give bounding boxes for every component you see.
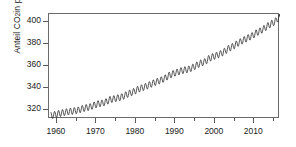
x-tick-minor-1985	[155, 118, 156, 121]
y-tick-label-360: 360	[1, 60, 41, 69]
co2-chart-figure: Anteil CO2 in ppm 3203403603804001960197…	[0, 0, 296, 147]
x-tick-1960	[56, 118, 57, 123]
y-tick-label-320: 320	[1, 104, 41, 113]
x-tick-1990	[174, 118, 175, 123]
x-tick-label-1960: 1960	[36, 127, 76, 136]
y-tick-400	[43, 21, 48, 22]
x-tick-label-1980: 1980	[115, 127, 155, 136]
x-tick-2000	[214, 118, 215, 123]
x-tick-label-1970: 1970	[75, 127, 115, 136]
x-tick-1970	[95, 118, 96, 123]
co2-line-path	[51, 14, 280, 118]
y-tick-360	[43, 65, 48, 66]
data-line-container	[49, 14, 278, 117]
x-tick-2010	[253, 118, 254, 123]
y-tick-label-340: 340	[1, 82, 41, 91]
y-axis-title-unit: in ppm	[12, 0, 22, 13]
y-tick-340	[43, 87, 48, 88]
x-tick-label-2010: 2010	[233, 127, 273, 136]
y-tick-label-wrap: 340	[0, 82, 41, 92]
x-tick-label-1990: 1990	[154, 127, 194, 136]
y-tick-380	[43, 43, 48, 44]
y-tick-label-400: 400	[1, 16, 41, 25]
y-tick-label-wrap: 320	[0, 104, 41, 114]
x-tick-minor-1995	[194, 118, 195, 121]
y-tick-320	[43, 109, 48, 110]
x-tick-minor-2015	[273, 118, 274, 121]
x-tick-minor-1975	[115, 118, 116, 121]
co2-line-series	[49, 14, 280, 119]
x-tick-1980	[135, 118, 136, 123]
plot-area	[48, 13, 279, 118]
y-tick-label-wrap: 400	[0, 16, 41, 26]
x-tick-minor-2005	[234, 118, 235, 121]
x-tick-label-2000: 2000	[194, 127, 234, 136]
y-tick-label-wrap: 380	[0, 38, 41, 48]
y-tick-label-380: 380	[1, 38, 41, 47]
y-tick-label-wrap: 360	[0, 60, 41, 70]
x-tick-minor-1965	[76, 118, 77, 121]
